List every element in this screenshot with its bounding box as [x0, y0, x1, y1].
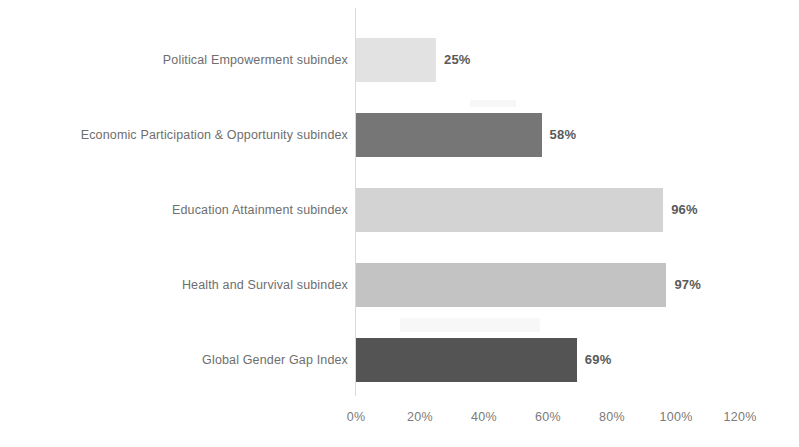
value-axis-tick: 100% [659, 404, 692, 430]
bar-health-survival[interactable] [356, 263, 666, 307]
bar-global-gender-gap-index[interactable] [356, 338, 577, 382]
value-axis-tick: 120% [723, 404, 756, 430]
bar-value-label: 58% [550, 113, 577, 157]
bar-value-label: 96% [671, 188, 698, 232]
bar-category-label: Global Gender Gap Index [202, 338, 348, 382]
bar-category-label: Education Attainment subindex [172, 188, 348, 232]
bar-value-label: 25% [444, 38, 471, 82]
value-axis-tick: 0% [347, 404, 366, 430]
value-axis: 0%20%40%60%80%100%120% [0, 404, 799, 430]
bar-category-label: Political Empowerment subindex [163, 38, 348, 82]
bar-category-label: Economic Participation & Opportunity sub… [81, 113, 348, 157]
scan-artifact [470, 100, 516, 107]
bar-political-empowerment[interactable] [356, 38, 436, 82]
bar-row: Health and Survival subindex 97% [0, 263, 799, 307]
bar-row: Economic Participation & Opportunity sub… [0, 113, 799, 157]
bar-value-label: 69% [585, 338, 612, 382]
scan-artifact [400, 318, 540, 332]
value-axis-tick: 40% [471, 404, 497, 430]
bar-economic-participation[interactable] [356, 113, 542, 157]
bar-row: Political Empowerment subindex 25% [0, 38, 799, 82]
bar-value-label: 97% [674, 263, 701, 307]
bar-education-attainment[interactable] [356, 188, 663, 232]
bar-row: Education Attainment subindex 96% [0, 188, 799, 232]
bar-category-label: Health and Survival subindex [182, 263, 348, 307]
value-axis-tick: 20% [407, 404, 433, 430]
bar-row: Global Gender Gap Index 69% [0, 338, 799, 382]
plot-area: Political Empowerment subindex 25% Econo… [0, 0, 799, 447]
value-axis-tick: 80% [599, 404, 625, 430]
value-axis-tick: 60% [535, 404, 561, 430]
bar-chart: Political Empowerment subindex 25% Econo… [0, 0, 799, 447]
